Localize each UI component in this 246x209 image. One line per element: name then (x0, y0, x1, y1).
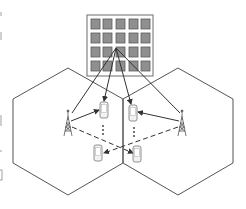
ris-panel (87, 15, 153, 76)
left-bottom-device-icon (94, 145, 102, 161)
right-bottom-device-icon (133, 146, 141, 162)
cellular-ris-diagram (0, 0, 246, 209)
left-top-device-icon (100, 102, 108, 118)
right-top-device-icon (129, 105, 137, 121)
left-tower-icon (64, 110, 72, 136)
edge-artifacts (0, 12, 2, 180)
cells (13, 68, 233, 195)
direct-links (71, 110, 179, 121)
right-cell-hexagon (123, 68, 233, 195)
right-tower-icon (178, 110, 186, 136)
interference-links (72, 127, 178, 153)
left-cell-hexagon (13, 68, 123, 195)
ellipsis-dots (102, 125, 135, 137)
